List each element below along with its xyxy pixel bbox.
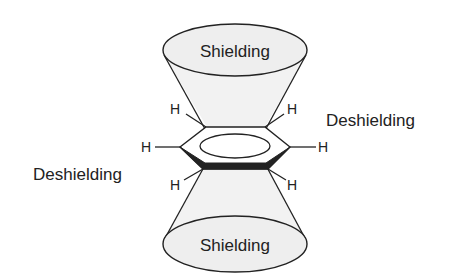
h-atom-top-left: H xyxy=(170,101,180,117)
benzene-ring xyxy=(180,127,290,169)
left-deshielding-label: Deshielding xyxy=(33,165,122,184)
h-atom-bottom-left: H xyxy=(170,177,180,193)
h-atom-right: H xyxy=(318,139,328,155)
top-shielding-label: Shielding xyxy=(200,42,270,61)
h-atom-bottom-right: H xyxy=(287,177,297,193)
right-deshielding-label: Deshielding xyxy=(326,111,415,130)
bottom-shielding-label: Shielding xyxy=(200,236,270,255)
benzene-shielding-diagram: Shielding Shielding H H H H H H Deshield… xyxy=(0,0,461,275)
h-atom-top-right: H xyxy=(287,101,297,117)
h-atom-left: H xyxy=(141,139,151,155)
